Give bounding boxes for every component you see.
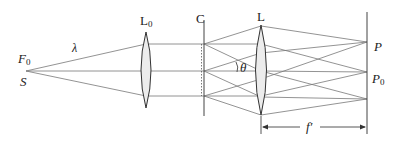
label-c: C <box>196 12 205 25</box>
label-p0: P0 <box>372 72 384 87</box>
ray-upper-source <box>26 44 146 71</box>
lens-l <box>256 25 267 115</box>
label-p: P <box>374 40 382 53</box>
label-focal-length: f′ <box>306 120 312 133</box>
optics-diagram: F0 S λ L0 C L θ P P0 f′ <box>0 0 399 143</box>
lens-l0 <box>141 32 151 108</box>
label-s: S <box>20 75 27 88</box>
label-theta: θ <box>240 61 246 74</box>
angle-arc <box>236 62 238 72</box>
label-l0: L0 <box>140 14 152 29</box>
label-l: L <box>257 10 265 23</box>
ray-lower-source <box>26 71 146 96</box>
label-lambda: λ <box>72 42 77 54</box>
label-f0: F0 <box>18 52 30 67</box>
